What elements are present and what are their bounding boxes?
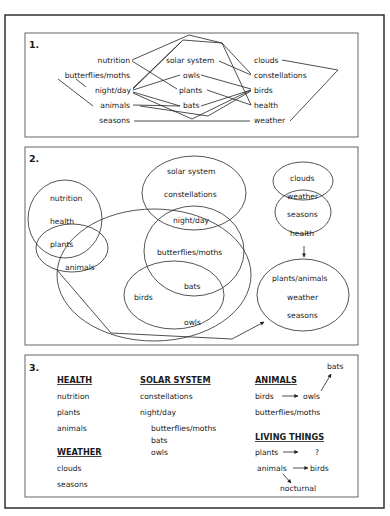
- s1-mid-solar-system: solar system: [166, 56, 214, 65]
- s3-living-nocturnal: nocturnal: [280, 484, 316, 493]
- section-2-number: 2.: [29, 153, 39, 164]
- s3-solar-bats: bats: [151, 436, 167, 445]
- s3-animals-owls: owls: [303, 392, 320, 401]
- s3-animals-birds: birds: [255, 392, 274, 401]
- s1-left-butterflies: butterflies/moths: [65, 71, 130, 80]
- s3-animals-bats: bats: [327, 362, 343, 371]
- s1-left-seasons: seasons: [99, 116, 130, 125]
- s1-right-health: health: [254, 101, 278, 110]
- concept-map-figure: 1. nutrition butterflies/moths night/day…: [0, 0, 390, 516]
- s2-nightday: night/day: [173, 216, 210, 225]
- s2-solar-system: solar system: [167, 167, 215, 176]
- s1-mid-plants: plants: [179, 86, 202, 95]
- s3-animals-heading: ANIMALS: [255, 375, 297, 385]
- s2-weather: weather: [287, 192, 319, 201]
- s1-left-animals: animals: [100, 101, 130, 110]
- s2-clouds: clouds: [290, 174, 315, 183]
- s3-weather-heading: WEATHER: [57, 447, 102, 457]
- s3-health-nutrition: nutrition: [57, 392, 90, 401]
- section-1-matching: 1. nutrition butterflies/moths night/day…: [25, 33, 358, 137]
- s1-right-clouds: clouds: [254, 56, 279, 65]
- s1-mid-bats: bats: [183, 101, 199, 110]
- s2-bats: bats: [184, 282, 200, 291]
- s3-living-heading: LIVING THINGS: [255, 432, 324, 442]
- section-2-clusters: 2. nutrition health plants animals solar…: [25, 147, 358, 345]
- s3-living-animals: animals: [257, 464, 287, 473]
- s2-health: health: [50, 217, 74, 226]
- s2-result-weather: weather: [287, 293, 319, 302]
- s2-butterflies: butterflies/moths: [157, 248, 222, 257]
- s1-right-weather: weather: [254, 116, 286, 125]
- s1-right-constellations: constellations: [254, 71, 307, 80]
- s3-health-animals: animals: [57, 424, 87, 433]
- section-3-number: 3.: [29, 362, 39, 373]
- s3-weather-clouds: clouds: [57, 464, 82, 473]
- s2-plants: plants: [50, 240, 73, 249]
- s3-living-plants: plants: [255, 448, 278, 457]
- s3-health-heading: HEALTH: [57, 375, 92, 385]
- s1-mid-owls: owls: [183, 71, 200, 80]
- s3-solar-nightday: night/day: [140, 408, 177, 417]
- section-3-categories: 3. HEALTH nutrition plants animals WEATH…: [25, 355, 358, 497]
- s2-animals: animals: [65, 263, 95, 272]
- s2-plants-animals: plants/animals: [272, 274, 328, 283]
- s3-solar-owls: owls: [151, 448, 168, 457]
- s3-solar-butterflies: butterflies/moths: [151, 424, 216, 433]
- s2-result-seasons: seasons: [287, 311, 318, 320]
- s3-weather-seasons: seasons: [57, 480, 88, 489]
- s2-health-w: health: [290, 229, 314, 238]
- s1-left-nutrition: nutrition: [98, 56, 131, 65]
- section-1-number: 1.: [29, 39, 39, 50]
- s3-health-plants: plants: [57, 408, 80, 417]
- s2-nutrition: nutrition: [50, 194, 83, 203]
- s2-constellations: constellations: [164, 190, 217, 199]
- s3-solar-heading: SOLAR SYSTEM: [140, 375, 211, 385]
- s2-birds: birds: [134, 293, 153, 302]
- s3-animals-butterflies: butterflies/moths: [255, 408, 320, 417]
- s1-left-nightday: night/day: [95, 86, 132, 95]
- s3-living-unknown: ?: [315, 448, 319, 457]
- s2-seasons: seasons: [287, 210, 318, 219]
- s1-right-birds: birds: [254, 86, 273, 95]
- s2-owls: owls: [184, 318, 201, 327]
- s3-solar-constellations: constellations: [140, 392, 193, 401]
- s3-living-birds: birds: [310, 464, 329, 473]
